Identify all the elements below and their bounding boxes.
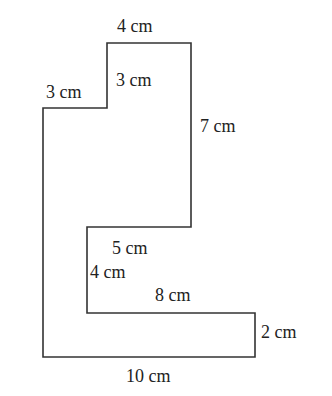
composite-shape-figure: 4 cm 3 cm 3 cm 7 cm 5 cm 4 cm 8 cm 2 cm …: [0, 0, 332, 396]
label-inner-step-height: 3 cm: [116, 71, 152, 89]
label-notch-width: 5 cm: [112, 239, 148, 257]
label-notch-height: 4 cm: [90, 263, 126, 281]
label-left-step-width: 3 cm: [46, 83, 82, 101]
label-top-width: 4 cm: [117, 17, 153, 35]
label-right-height: 7 cm: [200, 117, 236, 135]
label-lower-right-height: 2 cm: [261, 323, 297, 341]
label-bottom-width: 10 cm: [126, 367, 171, 385]
label-lower-inner-width: 8 cm: [155, 286, 191, 304]
